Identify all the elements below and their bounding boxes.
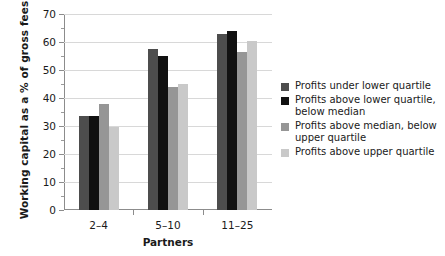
legend-swatch-icon — [281, 83, 289, 91]
y-axis-tick-label: 20 — [43, 148, 56, 160]
bar — [168, 87, 178, 210]
x-axis-tick — [133, 210, 134, 215]
legend-item: Profits under lower quartile — [281, 80, 441, 93]
legend-item: Profits above median, below upper quarti… — [281, 120, 441, 145]
x-axis-title: Partners — [64, 236, 272, 248]
x-axis-tick-label: 2–4 — [89, 219, 108, 231]
legend-label: Profits above lower quartile, below medi… — [295, 94, 441, 119]
legend-swatch-icon — [281, 123, 289, 131]
y-axis-tick-label: 0 — [49, 204, 56, 216]
bar — [227, 31, 237, 210]
y-axis-tick-label: 30 — [43, 120, 56, 132]
x-axis-tick-label: 11–25 — [221, 219, 253, 231]
bar-chart: Working capital as a % of gross fees 010… — [0, 0, 445, 256]
legend-item: Profits above upper quartile — [281, 146, 441, 159]
x-axis-tick — [203, 210, 204, 215]
chart-legend: Profits under lower quartileProfits abov… — [281, 80, 441, 159]
y-axis-tick-label: 40 — [43, 92, 56, 104]
legend-swatch-icon — [281, 149, 289, 157]
y-axis-tick-label: 10 — [43, 176, 56, 188]
x-axis-tick-label: 5–10 — [155, 219, 180, 231]
y-axis-title: Working capital as a % of gross fees — [18, 0, 30, 220]
bar — [178, 84, 188, 210]
bar-group — [133, 14, 202, 210]
legend-label: Profits under lower quartile — [295, 80, 441, 93]
bar — [109, 127, 119, 210]
y-axis-tick — [59, 210, 64, 211]
y-axis-tick-label: 60 — [43, 36, 56, 48]
bar — [247, 41, 257, 210]
y-axis-tick-label: 70 — [43, 8, 56, 20]
bar-group — [64, 14, 133, 210]
y-axis-tick-label: 50 — [43, 64, 56, 76]
bar — [79, 116, 89, 210]
bar-group — [203, 14, 272, 210]
bar — [89, 116, 99, 210]
legend-swatch-icon — [281, 97, 289, 105]
legend-label: Profits above upper quartile — [295, 146, 441, 159]
bar — [99, 104, 109, 210]
bar — [237, 52, 247, 210]
plot-area: 0102030405060702–45–1011–25 — [64, 14, 272, 210]
bar — [217, 34, 227, 210]
bar — [158, 56, 168, 210]
legend-label: Profits above median, below upper quarti… — [295, 120, 441, 145]
legend-item: Profits above lower quartile, below medi… — [281, 94, 441, 119]
bar — [148, 49, 158, 210]
